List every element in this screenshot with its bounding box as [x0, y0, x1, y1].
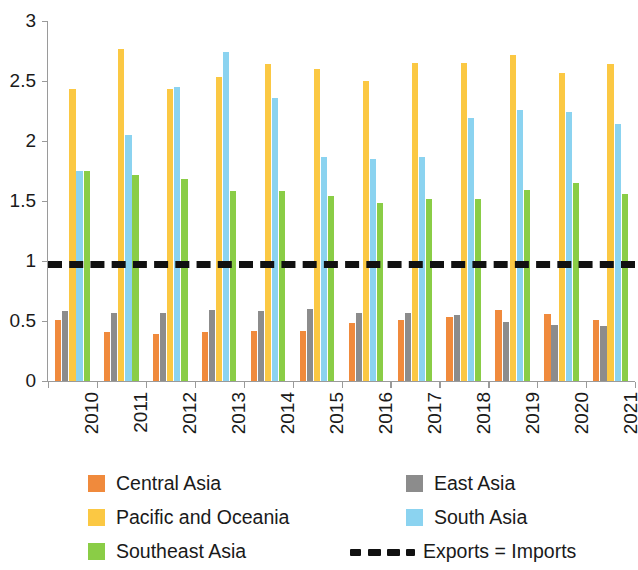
bar [412, 63, 418, 381]
legend-item-label: Exports = Imports [423, 540, 576, 563]
legend-item-label: Central Asia [116, 472, 221, 495]
bar [517, 110, 523, 381]
bar [321, 157, 327, 381]
legend-color-swatch [88, 475, 105, 492]
y-axis-tick-mark [42, 21, 48, 22]
bar [503, 322, 509, 381]
bar [622, 194, 628, 381]
bar [272, 98, 278, 381]
y-axis-tick-mark [42, 141, 48, 142]
bar [258, 311, 264, 381]
bar [265, 64, 271, 381]
bar [446, 317, 452, 381]
bar [607, 64, 613, 381]
legend-item: South Asia [406, 502, 527, 532]
y-axis-tick-label: 2.5 [10, 70, 36, 92]
bar [426, 199, 432, 381]
y-axis-tick-mark [42, 201, 48, 202]
bar [363, 81, 369, 381]
bar [454, 315, 460, 381]
y-axis-tick-mark [42, 81, 48, 82]
bar [153, 334, 159, 381]
legend-item-label: Southeast Asia [116, 540, 246, 563]
y-axis-tick-labels: 00.511.522.53 [0, 0, 42, 400]
bar [104, 332, 110, 381]
bar [495, 310, 501, 381]
y-axis-tick-label: 1.5 [10, 190, 36, 212]
y-axis-tick-mark [42, 321, 48, 322]
bar [398, 320, 404, 381]
legend-item-label: Pacific and Oceania [116, 506, 289, 529]
bar [356, 313, 362, 381]
x-axis-tick-label: 2013 [228, 392, 250, 434]
x-axis-tick-label: 2019 [522, 392, 544, 434]
x-axis-tick-labels: 2010201120122013201420152016201720182019… [0, 388, 638, 460]
bar [300, 331, 306, 381]
bar [475, 199, 481, 381]
bar [125, 135, 131, 381]
legend-item-label: East Asia [434, 472, 515, 495]
bar [230, 191, 236, 381]
legend-item: Central Asia [88, 468, 221, 498]
y-axis-tick-label: 2 [25, 130, 36, 152]
x-axis-tick-label: 2011 [130, 392, 152, 433]
x-axis-tick-label: 2021 [620, 392, 638, 434]
bars-layer [48, 21, 635, 381]
bar [461, 63, 467, 381]
bar [405, 313, 411, 381]
bar [209, 310, 215, 381]
legend-color-swatch [406, 509, 423, 526]
bar [132, 175, 138, 381]
x-axis-tick-label: 2018 [473, 392, 495, 434]
bar [559, 73, 565, 381]
bar [174, 87, 180, 381]
bar [69, 89, 75, 381]
bar [216, 77, 222, 381]
legend-item-label: South Asia [434, 506, 527, 529]
bar [419, 157, 425, 381]
x-axis-tick-label: 2014 [277, 392, 299, 434]
bar [118, 49, 124, 381]
bar [370, 159, 376, 381]
bar [76, 171, 82, 381]
exports-equals-imports-reference-line [48, 261, 635, 268]
bar [314, 69, 320, 381]
y-axis-tick-label: 1 [25, 250, 36, 272]
legend-item: Southeast Asia [88, 536, 246, 566]
legend-color-swatch [88, 543, 105, 560]
plot-area: 00.511.522.53 [0, 0, 638, 400]
x-axis-tick-label: 2012 [179, 392, 201, 434]
bar [62, 311, 68, 381]
bar [551, 325, 557, 381]
y-axis-tick-label: 3 [25, 10, 36, 32]
bar [566, 112, 572, 381]
bar [223, 52, 229, 381]
bar [84, 171, 90, 381]
chart-legend: Central AsiaPacific and OceaniaSoutheast… [0, 466, 638, 570]
legend-item: Exports = Imports [350, 536, 576, 566]
legend-color-swatch [88, 509, 105, 526]
dashed-line-icon [350, 543, 416, 560]
legend-item: Pacific and Oceania [88, 502, 289, 532]
bar [328, 196, 334, 381]
x-axis-tick-label: 2017 [424, 392, 446, 434]
bar [593, 320, 599, 381]
bar [160, 313, 166, 381]
bar [615, 124, 621, 381]
x-axis-tick-label: 2020 [571, 392, 593, 434]
legend-item: East Asia [406, 468, 515, 498]
bar [111, 313, 117, 381]
y-axis-tick-label: 0.5 [10, 310, 36, 332]
bar [251, 331, 257, 381]
x-axis-tick-label: 2015 [326, 392, 348, 434]
bar [279, 191, 285, 381]
chart-figure: 00.511.522.53 20102011201220132014201520… [0, 0, 638, 570]
bar [167, 89, 173, 381]
bar [307, 309, 313, 381]
bar [55, 320, 61, 381]
bar [468, 118, 474, 381]
x-axis-tick-label: 2010 [81, 392, 103, 434]
x-axis-tick-label: 2016 [375, 392, 397, 434]
bar [524, 190, 530, 381]
bar [510, 55, 516, 381]
